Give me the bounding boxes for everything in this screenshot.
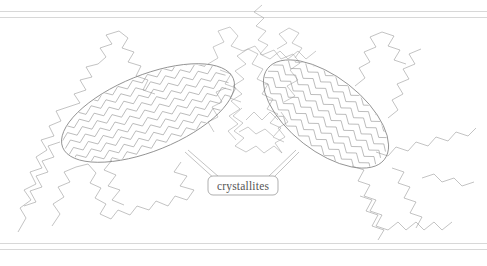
leader-line-left (185, 150, 219, 180)
top-rule (0, 12, 487, 18)
amorphous-chains-right (352, 32, 476, 240)
bottom-rule (0, 244, 487, 250)
polymer-morphology-figure: crystallites (0, 0, 487, 266)
left-lamella (48, 43, 247, 182)
leader-line-right (268, 150, 299, 180)
crystallites-label[interactable]: crystallites (208, 176, 278, 195)
crystallites-label-text: crystallites (217, 180, 270, 193)
right-lamella (245, 39, 407, 188)
amorphous-chains-left (18, 31, 194, 232)
figure-canvas: crystallites (0, 0, 487, 266)
amorphous-chains-centre (208, 5, 316, 153)
